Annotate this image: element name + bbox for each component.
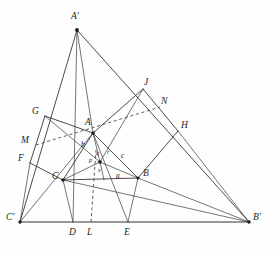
dot-P [98, 160, 102, 164]
segment-Bprime-B [138, 178, 249, 222]
label-point-A-prime: A' [71, 12, 79, 22]
label-segment-p: p [89, 157, 92, 163]
label-point-G: G [32, 107, 39, 117]
label-point-L: L [87, 228, 92, 238]
label-point-F: F [18, 154, 24, 164]
label-point-C: C [52, 172, 58, 182]
label-segment-r: r [107, 149, 109, 155]
segment-Aprime-Cprime [20, 30, 77, 222]
label-point-M: M [21, 136, 29, 146]
segment-P-L-foot [100, 162, 104, 180]
segment-C-D [63, 180, 73, 222]
dot-Bprime [247, 220, 250, 223]
geometry-canvas [0, 0, 275, 255]
dot-Aprime [75, 28, 79, 32]
label-side-b: b [81, 141, 85, 149]
segment-Aprime-Bprime [77, 30, 249, 222]
label-side-a: a [116, 172, 120, 180]
dot-C [61, 178, 65, 182]
label-point-C-prime: C' [6, 213, 14, 223]
segment-G-F [30, 116, 45, 163]
dashed-segment-M-to-N [36, 107, 160, 145]
segment-A-E-extended [93, 133, 128, 222]
segment-A-J [93, 89, 143, 133]
square-on-side-CB [63, 178, 138, 222]
label-side-c: c [121, 152, 124, 160]
label-point-H: H [181, 121, 188, 131]
label-segment-q: q [96, 150, 99, 156]
label-point-B: B [143, 169, 149, 179]
geometry-figure: A' B' C' A B C G M F J N H D L E b c a p… [0, 0, 275, 255]
label-point-N: N [161, 97, 167, 107]
label-segment-s: s [98, 167, 100, 173]
label-point-E: E [124, 228, 130, 238]
segment-B-E [128, 178, 138, 222]
label-point-D: D [69, 228, 76, 238]
dot-B [136, 176, 139, 179]
label-point-J: J [144, 78, 148, 88]
dot-A [91, 131, 95, 135]
dot-Cprime [18, 220, 21, 223]
label-point-A: A [85, 118, 91, 128]
label-point-B-prime: B' [253, 213, 261, 223]
